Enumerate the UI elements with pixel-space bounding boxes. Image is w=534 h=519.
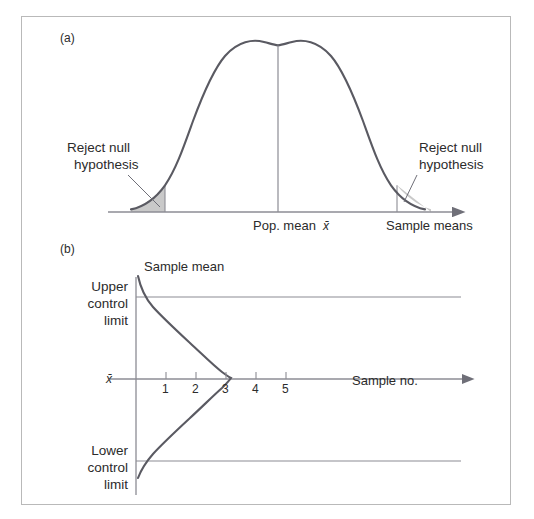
tick-label-3: 3	[222, 382, 229, 396]
panel-a: (a) Reject null hypothesis Reject null h…	[60, 31, 484, 233]
sample-means-label: Sample means	[386, 218, 473, 233]
reject-null-right-line1: Reject null	[419, 140, 482, 155]
pop-mean-label: Pop. mean	[253, 218, 316, 233]
reject-null-left-line1: Reject null	[67, 140, 130, 155]
upper-control-limit-line2: control	[87, 296, 128, 311]
tick-label-4: 4	[252, 382, 259, 396]
panel-a-tag: (a)	[60, 31, 75, 45]
reject-null-right-line2: hypothesis	[419, 157, 484, 172]
panel-b-y-axis-symbol: x̄	[105, 372, 113, 386]
pop-mean-symbol: x̄	[322, 219, 330, 233]
tick-label-5: 5	[282, 382, 289, 396]
lower-control-limit-line2: control	[87, 460, 128, 475]
normal-curve-b	[138, 276, 231, 478]
panel-b: (b) Sample mean 1 2 3 4 5	[60, 242, 462, 495]
panel-b-tag: (b)	[60, 242, 75, 256]
statistics-diagram: (a) Reject null hypothesis Reject null h…	[0, 0, 534, 519]
tick-label-2: 2	[192, 382, 199, 396]
upper-control-limit-line1: Upper	[91, 279, 128, 294]
figure-root: (a) Reject null hypothesis Reject null h…	[0, 0, 534, 519]
leader-line-left	[128, 175, 160, 207]
reject-null-left-line2: hypothesis	[74, 157, 139, 172]
sample-no-label: Sample no.	[352, 373, 418, 388]
sample-mean-label: Sample mean	[144, 259, 224, 274]
upper-control-limit-line3: limit	[104, 313, 128, 328]
lower-control-limit-line1: Lower	[91, 443, 128, 458]
lower-control-limit-line3: limit	[104, 477, 128, 492]
tick-label-1: 1	[162, 382, 169, 396]
